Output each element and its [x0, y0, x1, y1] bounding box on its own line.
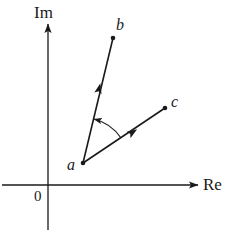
point-a-dot — [81, 161, 86, 166]
point-c-dot — [163, 106, 168, 111]
vector-a-to-c — [83, 108, 165, 163]
complex-plane-figure: Im Re 0 a b c — [0, 0, 234, 240]
vector-a-to-b-line — [83, 38, 113, 163]
real-axis-label: Re — [203, 176, 222, 193]
point-b-dot — [111, 36, 116, 41]
angle-arc — [94, 119, 121, 138]
figure-canvas — [0, 0, 234, 240]
point-label-c: c — [171, 94, 178, 110]
vector-a-to-b — [83, 38, 113, 163]
point-label-b: b — [116, 17, 124, 33]
point-label-a: a — [67, 157, 75, 173]
imaginary-axis-label: Im — [34, 4, 53, 21]
vector-a-to-c-line — [83, 108, 165, 163]
angle-arc-path — [94, 119, 121, 138]
origin-label: 0 — [34, 189, 42, 204]
